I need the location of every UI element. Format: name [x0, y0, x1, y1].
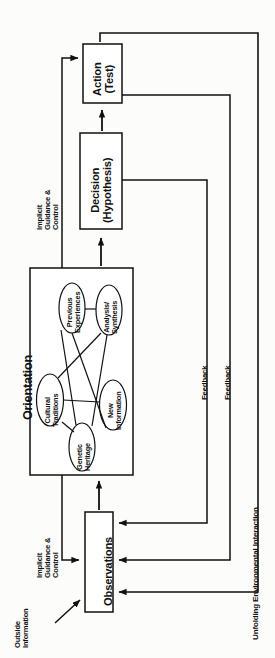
orientation-node-label-analysis-synthesis: Analysis/ Synthesis: [103, 301, 119, 334]
outside-information-label: Outside Information: [14, 608, 30, 648]
node-line2: Heritage: [84, 443, 92, 471]
action-box-label: Action (Test): [92, 62, 116, 96]
orientation-title: Orientation: [22, 355, 35, 420]
node-line2: Information: [115, 392, 123, 430]
orientation-node-label-genetic-heritage: Genetic Heritage: [76, 443, 92, 471]
decision-label-line2: (Hypothesis): [102, 158, 114, 223]
implicit-guidance-control-lower-label: Implicit Guidance & Control: [36, 538, 60, 578]
implicit-guidance-control-upper-label: Implicit Guidance & Control: [36, 190, 60, 230]
orientation-node-label-cultural-traditions: Cultural Traditions: [44, 394, 60, 427]
node-line2: Synthesis: [111, 301, 119, 334]
node-line2: Experiences: [74, 292, 82, 333]
node-line2: Traditions: [52, 394, 60, 427]
implicit-line3: Control: [52, 190, 60, 230]
outside-information-arrow: [55, 600, 80, 623]
unfolding-environmental-interaction-label: Unfolding Environmental Interaction: [252, 507, 261, 640]
observations-label-line1: Observations: [103, 537, 115, 606]
feedback-label-1: Feedback: [201, 366, 209, 400]
feedback-action-to-observations: [119, 95, 230, 560]
implicit-guidance-orientation-to-observations: [62, 475, 79, 560]
implicit-line3: Control: [52, 538, 60, 578]
decision-box-label: Decision (Hypothesis): [90, 158, 114, 223]
ooda-loop-diagram: Action (Test) Decision (Hypothesis) Obse…: [0, 0, 275, 658]
orientation-node-label-previous-experiences: Previous Experiences: [66, 292, 82, 333]
observations-box-label: Observations: [103, 537, 115, 606]
implicit-guidance-orientation-to-action: [62, 58, 78, 268]
outside-line2: Information: [22, 608, 30, 648]
feedback-label-2: Feedback: [224, 366, 232, 400]
orientation-node-label-new-information: New Information: [107, 392, 123, 430]
action-label-line2: (Test): [104, 62, 116, 96]
